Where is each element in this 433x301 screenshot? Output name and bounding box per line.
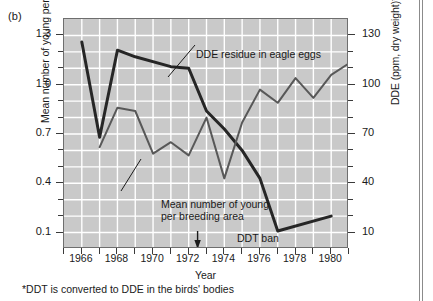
y-axis-left-tick-major [56, 232, 63, 233]
x-axis-tick [348, 248, 349, 254]
y-axis-right-tick-minor [348, 117, 353, 118]
dde-series-label: DDE residue in eagle eggs [196, 48, 321, 60]
figure-footnote: *DDT is converted to DDE in the birds' b… [22, 283, 234, 295]
y-axis-right-tick-major [348, 232, 355, 233]
y-axis-left-tick-minor [58, 100, 63, 101]
x-axis-title: Year [63, 269, 348, 281]
y-axis-right-tick-label: 40 [362, 176, 402, 187]
y-axis-right-tick-label: 100 [362, 78, 402, 89]
y-axis-left-tick-major [56, 34, 63, 35]
y-axis-right-tick-minor [348, 215, 353, 216]
figure-panel: (b) Mean number of young per breeding ar… [0, 0, 433, 301]
x-axis-tick-label: 1974 [203, 252, 243, 264]
panel-letter: (b) [8, 10, 22, 22]
y-axis-right-tick-minor [348, 199, 353, 200]
x-axis-tick-label: 1976 [239, 252, 279, 264]
y-axis-right-tick-minor [348, 51, 353, 52]
y-axis-left-tick-major [56, 133, 63, 134]
y-axis-right-tick-label: 130 [362, 28, 402, 39]
x-axis-tick-label: 1980 [310, 252, 350, 264]
y-axis-right-tick-major [348, 182, 355, 183]
y-axis-left-title: Mean number of young per breeding area [39, 0, 51, 143]
y-axis-right-tick-major [348, 84, 355, 85]
x-axis-tick-label: 1966 [61, 252, 101, 264]
y-axis-right-tick-minor [348, 166, 353, 167]
y-axis-right-tick-major [348, 133, 355, 134]
y-axis-left-tick-minor [58, 117, 63, 118]
x-axis-tick-label: 1970 [132, 252, 172, 264]
young-series-label-line2: per breeding area [161, 210, 269, 222]
y-axis-right-tick-label: 10 [362, 226, 402, 237]
y-axis-left-tick-major [56, 84, 63, 85]
y-axis-left-tick-major [56, 182, 63, 183]
young-series-label-line1: Mean number of young [161, 198, 269, 210]
y-axis-left-tick-label: 0.1 [11, 226, 51, 237]
y-axis-left-tick-label: 0.4 [11, 176, 51, 187]
page-rule-inner [422, 0, 423, 301]
x-axis-tick-label: 1972 [168, 252, 208, 264]
y-axis-right-tick-minor [348, 67, 353, 68]
y-axis-left-tick-minor [58, 51, 63, 52]
y-axis-left-tick-minor [58, 67, 63, 68]
y-axis-right-tick-major [348, 34, 355, 35]
y-axis-left-tick-minor [58, 166, 63, 167]
y-axis-left-tick-label: 0.7 [11, 127, 51, 138]
y-axis-right-tick-minor [348, 149, 353, 150]
x-axis-tick-label: 1978 [275, 252, 315, 264]
y-axis-right-tick-minor [348, 100, 353, 101]
y-axis-right-tick-label: 70 [362, 127, 402, 138]
y-axis-left-tick-minor [58, 215, 63, 216]
y-axis-left-tick-label: 1.3 [11, 28, 51, 39]
page-rule-outer [419, 0, 420, 301]
y-axis-left-tick-minor [58, 199, 63, 200]
y-axis-left-tick-minor [58, 149, 63, 150]
plot-area: DDE residue in eagle eggs Mean number of… [63, 18, 348, 248]
young-series-label: Mean number of young per breeding area [161, 198, 269, 222]
x-axis-tick-label: 1968 [96, 252, 136, 264]
y-axis-left-tick-label: 1.0 [11, 78, 51, 89]
ddt-ban-label: DDT ban [237, 232, 279, 244]
